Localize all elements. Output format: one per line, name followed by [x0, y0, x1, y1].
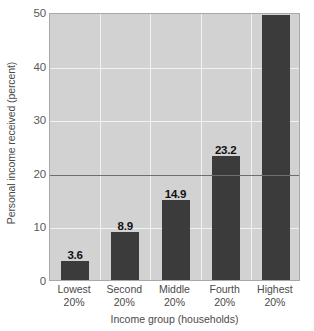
- x-axis-tick-label-line: Middle: [159, 283, 190, 296]
- bar[interactable]: [111, 232, 139, 280]
- x-axis-tick-label: Fourth20%: [210, 283, 240, 309]
- bar-value-label: 14.9: [165, 188, 187, 200]
- x-axis-tick-label: Middle20%: [159, 283, 190, 309]
- x-axis-tick-label-line: 20%: [106, 296, 142, 309]
- plot-area: 3.68.914.923.249.4: [49, 13, 300, 281]
- x-axis-tick-label: Lowest20%: [57, 283, 90, 309]
- y-axis-tick-label: 20: [22, 168, 46, 180]
- bar-value-label: 49.4: [265, 13, 287, 15]
- y-axis-tick-label: 0: [22, 275, 46, 287]
- x-axis-tick-label-line: Highest: [257, 283, 293, 296]
- y-axis-tick-label: 30: [22, 114, 46, 126]
- x-axis-tick-label-line: 20%: [159, 296, 190, 309]
- x-axis-tick-label: Second20%: [106, 283, 142, 309]
- bar-value-label: 23.2: [215, 144, 237, 156]
- x-axis-tick-label-line: Fourth: [210, 283, 240, 296]
- x-axis-tick-label-line: 20%: [57, 296, 90, 309]
- x-axis-tick-label-line: 20%: [210, 296, 240, 309]
- y-axis-tick-labels: 01020304050: [21, 13, 46, 281]
- y-axis-tick-label: 50: [22, 7, 46, 19]
- gridline-vertical: [150, 14, 151, 280]
- bar-value-label: 8.9: [118, 220, 133, 232]
- x-axis-tick-label-line: Lowest: [57, 283, 90, 296]
- y-axis-tick-label: 10: [22, 221, 46, 233]
- bar-chart-figure: Personal income received (percent) 01020…: [0, 0, 314, 331]
- gridline-vertical: [100, 14, 101, 280]
- y-axis-title: Personal income received (percent): [0, 0, 22, 285]
- highlight-gridline: [50, 175, 299, 176]
- x-axis-tick-label-line: 20%: [257, 296, 293, 309]
- bar[interactable]: [61, 261, 89, 280]
- x-axis-tick-label-line: Second: [106, 283, 142, 296]
- y-axis-tick-label: 40: [22, 61, 46, 73]
- bar-value-label: 3.6: [67, 249, 82, 261]
- gridline-vertical: [251, 14, 252, 280]
- x-axis-tick-label: Highest20%: [257, 283, 293, 309]
- bar[interactable]: [262, 15, 290, 280]
- gridline-vertical: [201, 14, 202, 280]
- x-axis-tick-labels: Lowest20%Second20%Middle20%Fourth20%High…: [49, 283, 300, 317]
- bar[interactable]: [162, 200, 190, 280]
- x-axis-title: Income group (households): [49, 313, 300, 325]
- y-axis-title-text: Personal income received (percent): [5, 61, 17, 223]
